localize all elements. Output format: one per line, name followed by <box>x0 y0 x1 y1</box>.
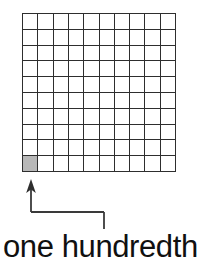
grid-cell <box>145 30 160 46</box>
grid-cell <box>145 140 160 156</box>
grid-cell <box>54 30 69 46</box>
grid-cell-shaded <box>23 156 38 172</box>
grid-cell <box>23 77 38 93</box>
grid-cell <box>38 125 53 141</box>
grid-cell <box>23 140 38 156</box>
grid-cell <box>38 30 53 46</box>
grid-cell <box>145 109 160 125</box>
grid-cell <box>161 140 176 156</box>
grid-cell <box>115 109 130 125</box>
grid-cell <box>54 156 69 172</box>
grid-cell <box>100 125 115 141</box>
grid-cell <box>69 156 84 172</box>
grid-cell <box>84 14 99 30</box>
grid-cell <box>84 61 99 77</box>
grid-cell <box>38 77 53 93</box>
grid-cell <box>130 46 145 62</box>
grid-cell <box>100 30 115 46</box>
grid-cell <box>84 30 99 46</box>
grid-cell <box>145 77 160 93</box>
grid-cell <box>54 77 69 93</box>
grid-cell <box>161 30 176 46</box>
grid-cell <box>130 140 145 156</box>
grid-cell <box>69 93 84 109</box>
grid-cell <box>38 46 53 62</box>
grid-cell <box>54 109 69 125</box>
grid-cell <box>69 125 84 141</box>
grid-cell <box>54 93 69 109</box>
grid-cell <box>161 14 176 30</box>
grid-cell <box>130 61 145 77</box>
grid-cell <box>161 93 176 109</box>
grid-cell <box>84 109 99 125</box>
grid-cell <box>23 30 38 46</box>
grid-cell <box>161 61 176 77</box>
grid-cell <box>161 125 176 141</box>
grid-cell <box>84 156 99 172</box>
grid-cell <box>115 125 130 141</box>
grid-cell <box>115 77 130 93</box>
grid-cell <box>130 156 145 172</box>
grid-cell <box>84 77 99 93</box>
grid-cell <box>161 77 176 93</box>
grid-cell <box>38 61 53 77</box>
grid-cell <box>145 46 160 62</box>
grid-cell <box>100 61 115 77</box>
grid-cell <box>145 93 160 109</box>
grid-cell <box>100 156 115 172</box>
grid-cell <box>161 156 176 172</box>
grid-cell <box>84 140 99 156</box>
grid-cell <box>69 109 84 125</box>
grid-cell <box>54 14 69 30</box>
grid-cell <box>23 125 38 141</box>
grid-cell <box>84 93 99 109</box>
hundredths-grid <box>22 13 176 172</box>
grid-cell <box>145 61 160 77</box>
grid-cell <box>145 14 160 30</box>
grid-cell <box>161 109 176 125</box>
grid-cell <box>115 93 130 109</box>
caption-text: one hundredth <box>3 230 205 264</box>
grid-cell <box>23 109 38 125</box>
grid-cell <box>38 14 53 30</box>
grid-cell <box>100 93 115 109</box>
grid-cell <box>38 156 53 172</box>
grid-cell <box>69 140 84 156</box>
grid-cell <box>115 156 130 172</box>
grid-cell <box>115 30 130 46</box>
grid-cells-container <box>22 13 176 172</box>
arrow-head-icon <box>26 179 36 193</box>
grid-cell <box>130 109 145 125</box>
grid-cell <box>130 125 145 141</box>
grid-cell <box>100 77 115 93</box>
grid-cell <box>100 14 115 30</box>
grid-cell <box>23 61 38 77</box>
grid-cell <box>23 93 38 109</box>
grid-cell <box>100 140 115 156</box>
grid-cell <box>38 140 53 156</box>
grid-cell <box>84 46 99 62</box>
grid-cell <box>38 109 53 125</box>
grid-cell <box>69 30 84 46</box>
grid-cell <box>23 14 38 30</box>
grid-cell <box>100 109 115 125</box>
grid-cell <box>54 125 69 141</box>
grid-cell <box>115 140 130 156</box>
grid-cell <box>130 77 145 93</box>
hundredths-grid-figure: one hundredth <box>0 0 206 265</box>
grid-cell <box>130 30 145 46</box>
grid-cell <box>145 125 160 141</box>
grid-cell <box>54 61 69 77</box>
grid-cell <box>69 61 84 77</box>
grid-cell <box>115 46 130 62</box>
grid-cell <box>161 46 176 62</box>
grid-cell <box>69 46 84 62</box>
grid-cell <box>69 77 84 93</box>
grid-cell <box>145 156 160 172</box>
grid-cell <box>69 14 84 30</box>
grid-cell <box>115 14 130 30</box>
grid-cell <box>100 46 115 62</box>
grid-cell <box>84 125 99 141</box>
grid-cell <box>130 93 145 109</box>
grid-cell <box>54 140 69 156</box>
